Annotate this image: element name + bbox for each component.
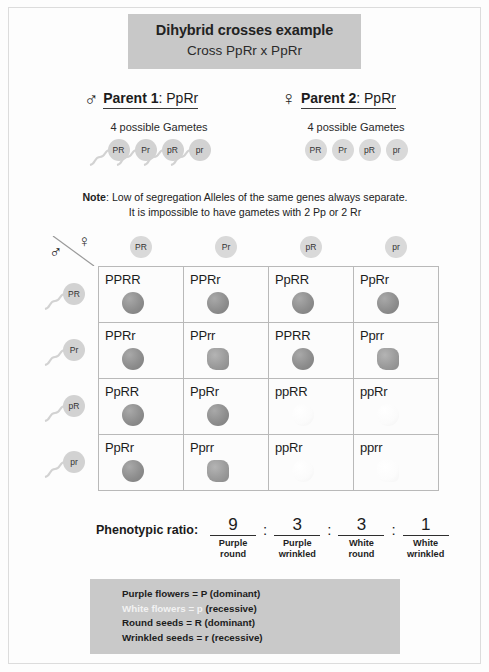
note-line-2: It is impossible to have gametes with 2 … [44, 205, 446, 220]
corner-female-symbol-icon: ♀ [78, 233, 91, 251]
ratio-separator: : [261, 521, 269, 538]
parent-1-gamete-row: PR Pr pR pr [84, 139, 234, 161]
legend-line-purple-flowers: Purple flowers = P (dominant) [90, 587, 400, 602]
seed-round-white-icon [292, 404, 314, 426]
gamete-label: Pr [70, 345, 79, 355]
dihybrid-cross-infographic: Dihybrid crosses example Cross PpRr x Pp… [0, 0, 489, 672]
parent-1-gamete-caption: 4 possible Gametes [84, 121, 234, 133]
gamete-sperm: pr [63, 451, 85, 473]
ratio-den-line: White [333, 538, 389, 549]
ratio-separator: : [325, 521, 333, 538]
phenotypic-ratio: Phenotypic ratio: 9 Purple round : 3 Pur… [96, 515, 454, 560]
seed-wrinkled-purple-icon [207, 460, 229, 482]
punnett-genotype: PPRr [105, 328, 135, 343]
female-symbol-icon: ♀ [281, 89, 296, 108]
ratio-denominator: White round [333, 536, 389, 560]
punnett-cell: PpRr [354, 267, 439, 323]
gamete-label: PR [68, 289, 80, 299]
legend-line-white-flowers: White flowers = p (recessive) [90, 602, 400, 617]
punnett-genotype: PpRr [105, 440, 134, 455]
gamete-egg: PR [130, 236, 152, 258]
parent-2-genotype: : PpRr [356, 90, 396, 106]
phenotypic-ratio-label: Phenotypic ratio: [96, 523, 198, 537]
seed-round-purple-icon [122, 292, 144, 314]
punnett-cell: Pprr [354, 323, 439, 379]
punnett-genotype: PPrr [190, 328, 215, 343]
punnett-cell: PPrr [184, 323, 269, 379]
legend-visible-text: (recessive) [206, 603, 257, 614]
parent-2-gamete-caption: 4 possible Gametes [281, 121, 431, 133]
sperm-tail-icon [43, 404, 67, 426]
parent-1-name: Parent 1 [103, 90, 158, 106]
gamete-label: PR [310, 145, 322, 155]
ratio-den-line: Purple [205, 538, 261, 549]
punnett-col-header: PR [99, 236, 184, 267]
ratio-den-line: round [333, 549, 389, 560]
ratio-term: 3 White round [333, 515, 389, 560]
punnett-col-header: pR [269, 236, 354, 267]
punnett-genotype: pprr [360, 440, 382, 455]
ratio-denominator: Purple round [205, 536, 261, 560]
punnett-cell: PpRr [184, 379, 269, 435]
gamete-egg: pr [386, 139, 408, 161]
legend-line-round-seeds: Round seeds = R (dominant) [90, 616, 400, 631]
punnett-cell: PpRR [99, 379, 184, 435]
punnett-genotype: PpRr [190, 384, 219, 399]
punnett-genotype: ppRr [275, 440, 302, 455]
seed-round-purple-icon [292, 292, 314, 314]
parent-1-title: Parent 1: PpRr [103, 90, 198, 109]
ratio-number: 3 [338, 515, 384, 536]
gamete-label: PR [135, 242, 147, 252]
seed-wrinkled-purple-icon [377, 348, 399, 370]
ratio-den-line: round [205, 549, 261, 560]
parent-2-block: ♀ Parent 2: PpRr 4 possible Gametes PR P… [281, 89, 431, 161]
punnett-corner-cell: ♂ ♀ [45, 236, 99, 267]
seed-round-purple-icon [207, 292, 229, 314]
gamete-sperm: Pr [135, 139, 157, 161]
gamete-label: Pr [141, 145, 150, 155]
parent-2-heading: ♀ Parent 2: PpRr [281, 89, 431, 109]
ratio-den-line: wrinkled [398, 549, 454, 560]
gamete-label: pR [167, 145, 178, 155]
gamete-label: pR [306, 242, 317, 252]
ratio-den-line: White [398, 538, 454, 549]
gamete-sperm: Pr [63, 339, 85, 361]
male-symbol-icon: ♂ [84, 90, 98, 109]
gamete-sperm: PR [108, 139, 130, 161]
parent-1-genotype: : PpRr [159, 90, 199, 106]
punnett-genotype: ppRR [275, 384, 307, 399]
punnett-row: PR PPRR PPRr PpRR PpRr [45, 267, 439, 323]
gamete-egg: Pr [332, 139, 354, 161]
punnett-col-header: Pr [184, 236, 269, 267]
gamete-label: pr [196, 145, 204, 155]
note-text-1: : Low of segregation Alleles of the same… [106, 191, 408, 203]
punnett-row-header: pr [45, 435, 99, 491]
punnett-cell: PPRr [99, 323, 184, 379]
gamete-egg: pr [385, 236, 407, 258]
parent-1-heading: ♂ Parent 1: PpRr [84, 89, 234, 109]
note-block: Note: Low of segregation Alleles of the … [44, 190, 446, 220]
title-subtitle: Cross PpRr x PpRr [128, 41, 361, 60]
punnett-cell: PpRr [99, 435, 184, 491]
seed-round-white-icon [292, 460, 314, 482]
parent-2-gamete-row: PR Pr pR pr [281, 139, 431, 161]
ratio-separator: : [389, 521, 397, 538]
legend-box: Purple flowers = P (dominant) White flow… [90, 579, 400, 654]
title-main: Dihybrid crosses example [128, 21, 361, 40]
punnett-genotype: PpRR [105, 384, 139, 399]
gamete-label: Pr [338, 145, 347, 155]
gamete-sperm: PR [63, 283, 85, 305]
punnett-col-header: pr [354, 236, 439, 267]
punnett-cell: PpRR [269, 267, 354, 323]
note-label: Note [82, 191, 106, 203]
punnett-row: pr PpRr Pprr ppRr pprr [45, 435, 439, 491]
seed-wrinkled-purple-icon [207, 348, 229, 370]
legend-line-wrinkled-seeds: Wrinkled seeds = r (recessive) [90, 631, 400, 646]
ratio-number: 9 [210, 515, 256, 536]
punnett-genotype: PPRr [190, 272, 220, 287]
seed-round-purple-icon [292, 348, 314, 370]
ratio-denominator: Purple wrinkled [269, 536, 325, 560]
gamete-label: PR [113, 145, 125, 155]
seed-round-purple-icon [207, 404, 229, 426]
title-banner: Dihybrid crosses example Cross PpRr x Pp… [128, 14, 361, 69]
